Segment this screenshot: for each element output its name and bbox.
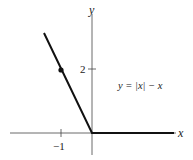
y-tick-label-2: 2	[80, 63, 86, 75]
x-axis-label: x	[177, 126, 184, 140]
y-axis-label: y	[88, 3, 95, 17]
x-tick-label-neg1: −1	[53, 140, 65, 152]
chart-figure: y x −1 2 y = |x| − x	[0, 0, 193, 160]
marked-point	[58, 67, 63, 72]
equation-annotation: y = |x| − x	[117, 80, 163, 91]
chart-svg: y x −1 2 y = |x| − x	[0, 0, 193, 160]
